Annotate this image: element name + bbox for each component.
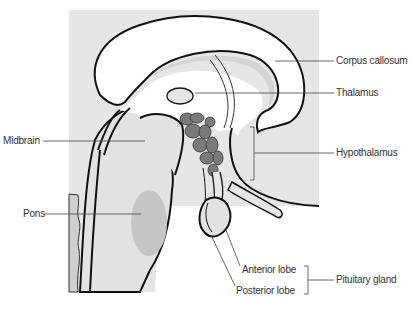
label-corpus-callosum: Corpus callosum <box>336 55 407 67</box>
pituitary-gland <box>199 198 230 237</box>
thalamus <box>167 88 193 104</box>
label-pons: Pons <box>23 208 45 220</box>
brain-diagram: Corpus callosum Thalamus Midbrain Hypoth… <box>0 0 412 310</box>
pons-region <box>131 190 167 256</box>
label-anterior-lobe: Anterior lobe <box>242 264 296 276</box>
label-posterior-lobe: Posterior lobe <box>236 285 295 297</box>
label-hypothalamus: Hypothalamus <box>336 147 398 159</box>
label-pituitary-gland: Pituitary gland <box>336 274 396 286</box>
pituitary-bracket <box>304 266 334 294</box>
label-midbrain: Midbrain <box>3 135 40 147</box>
label-thalamus: Thalamus <box>336 87 378 99</box>
